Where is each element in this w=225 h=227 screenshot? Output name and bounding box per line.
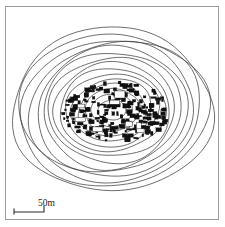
building-footprint	[111, 92, 114, 95]
building-footprint	[104, 90, 107, 93]
building-footprint	[90, 133, 94, 135]
building-footprint	[150, 121, 156, 124]
site-plan-svg	[0, 0, 225, 227]
building-footprint	[76, 129, 80, 132]
building-footprint	[113, 88, 117, 91]
building-footprint	[146, 107, 148, 109]
building-footprint	[127, 134, 133, 138]
building-footprint	[87, 107, 90, 111]
building-footprint	[103, 82, 106, 86]
building-footprint	[69, 112, 75, 116]
building-footprint	[77, 122, 83, 125]
building-footprint	[149, 103, 153, 107]
building-footprint	[160, 97, 163, 99]
building-footprint	[109, 133, 112, 137]
building-footprint	[162, 121, 167, 124]
building-footprint	[148, 109, 154, 112]
building-footprint	[123, 104, 128, 106]
building-footprint	[80, 110, 86, 113]
building-footprint	[61, 112, 65, 115]
building-footprint	[95, 117, 100, 119]
courtyard-space	[115, 91, 125, 98]
building-footprint	[126, 128, 132, 130]
building-footprint	[138, 108, 141, 111]
building-footprint	[102, 117, 106, 120]
courtyard-space	[93, 127, 103, 132]
courtyard-space	[75, 118, 86, 122]
building-footprint	[66, 100, 68, 102]
building-footprint	[90, 86, 94, 89]
building-footprint	[161, 98, 163, 101]
contour-ring	[43, 52, 180, 171]
building-footprint	[83, 115, 87, 117]
building-footprint	[143, 96, 146, 98]
building-footprint	[134, 84, 139, 87]
building-footprint	[161, 112, 166, 115]
building-footprint	[152, 89, 155, 92]
building-footprint	[143, 121, 148, 123]
building-footprint	[156, 101, 159, 105]
building-footprint	[120, 115, 122, 117]
building-footprint	[129, 88, 134, 92]
building-footprint	[141, 110, 146, 113]
contour-ring	[12, 24, 218, 195]
building-footprint	[105, 134, 108, 137]
building-footprint	[118, 81, 121, 84]
building-footprint	[70, 98, 74, 101]
building-footprint	[97, 120, 99, 122]
building-footprint	[85, 89, 89, 92]
building-footprint	[125, 130, 127, 132]
building-footprint	[97, 110, 99, 114]
site-plan-figure: 50m	[0, 0, 225, 227]
building-footprint	[105, 139, 107, 141]
building-footprint	[161, 115, 165, 119]
building-footprint	[92, 101, 96, 103]
building-footprint	[108, 104, 113, 107]
building-footprint	[112, 112, 115, 116]
building-footprint	[72, 118, 74, 121]
building-footprint	[123, 83, 128, 86]
building-footprint	[108, 96, 111, 100]
building-footprint	[117, 105, 119, 107]
building-footprint	[66, 104, 70, 106]
building-footprint	[144, 104, 146, 107]
building-footprint	[162, 108, 166, 111]
building-footprint	[139, 99, 142, 103]
building-footprint	[89, 113, 92, 117]
building-footprint	[116, 111, 118, 115]
building-footprint	[75, 126, 81, 128]
building-footprint	[96, 136, 100, 137]
building-footprint	[83, 125, 87, 127]
courtyard-space	[78, 104, 85, 108]
building-footprint	[159, 117, 161, 119]
contour-ring	[21, 35, 200, 186]
building-footprint	[144, 126, 150, 129]
building-footprint	[105, 109, 109, 111]
building-footprint	[156, 128, 162, 132]
building-footprint	[151, 97, 157, 99]
building-footprint	[110, 126, 114, 130]
building-footprint	[136, 114, 138, 117]
building-footprint	[65, 109, 67, 111]
building-footprint	[110, 122, 114, 125]
building-footprint	[104, 104, 107, 107]
building-footprint	[104, 112, 108, 115]
building-footprint	[147, 117, 151, 121]
settlement-building-group	[61, 81, 167, 142]
building-footprint	[138, 102, 140, 106]
building-footprint	[142, 134, 144, 137]
courtyard-space	[126, 121, 132, 126]
building-footprint	[92, 89, 94, 92]
building-footprint	[63, 118, 65, 120]
building-footprint	[119, 125, 124, 127]
building-footprint	[67, 123, 70, 127]
building-footprint	[78, 101, 81, 105]
building-footprint	[109, 125, 112, 126]
building-footprint	[114, 132, 118, 134]
building-footprint	[106, 129, 109, 131]
building-footprint	[66, 120, 69, 122]
building-footprint	[127, 113, 130, 116]
courtyard-space	[110, 100, 120, 104]
scale-bar-label: 50m	[38, 198, 55, 208]
building-footprint	[150, 131, 153, 135]
